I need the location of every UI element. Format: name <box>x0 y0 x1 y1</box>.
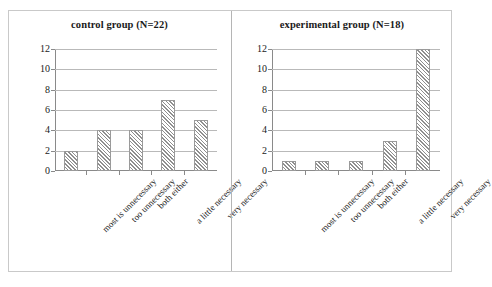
bar-slot <box>406 49 440 171</box>
chart-title-experimental-group: experimental group (N=18) <box>232 19 452 30</box>
y-tick-label: 8 <box>45 85 50 95</box>
bar-slot <box>55 49 87 171</box>
x-tick-mark <box>405 171 406 175</box>
bar-slot <box>152 49 184 171</box>
x-tick-mark <box>119 171 120 175</box>
bar-slot <box>306 49 340 171</box>
y-tick-mark <box>268 171 272 172</box>
y-tick-label: 6 <box>262 105 267 115</box>
bar-slot <box>87 49 119 171</box>
y-tick-label: 12 <box>257 44 267 54</box>
y-tick-label: 10 <box>40 64 50 74</box>
bar <box>161 100 175 171</box>
bar-series-experimental-group <box>272 49 440 171</box>
bar <box>315 161 329 171</box>
x-tick-mark <box>338 171 339 175</box>
y-tick-label: 6 <box>45 105 50 115</box>
y-tick-label: 2 <box>45 146 50 156</box>
bar <box>349 161 363 171</box>
bar-slot <box>373 49 407 171</box>
y-tick-mark <box>51 171 55 172</box>
bar <box>97 130 111 171</box>
plot-area-control-group: 024681012 <box>55 49 217 171</box>
bar-series-control-group <box>55 49 217 171</box>
y-tick-label: 4 <box>262 125 267 135</box>
bar-slot <box>120 49 152 171</box>
y-tick-label: 0 <box>262 166 267 176</box>
y-tick-label: 12 <box>40 44 50 54</box>
chart-panel-experimental-group: experimental group (N=18) 024681012 most… <box>231 11 452 271</box>
x-tick-mark <box>372 171 373 175</box>
y-tick-label: 0 <box>45 166 50 176</box>
x-tick-mark <box>305 171 306 175</box>
bar <box>194 120 208 171</box>
x-tick-labels-control-group: most is unnecessarytoo unnecessaryboth e… <box>55 177 217 267</box>
x-tick-label: a little necessary <box>417 177 466 226</box>
bar <box>129 130 143 171</box>
bar <box>282 161 296 171</box>
bar-slot <box>185 49 217 171</box>
bar-slot <box>339 49 373 171</box>
chart-panel-control-group: control group (N=22) 024681012 most is u… <box>9 11 230 271</box>
bar <box>64 151 78 171</box>
bar-slot <box>272 49 306 171</box>
x-tick-mark <box>151 171 152 175</box>
x-tick-mark <box>184 171 185 175</box>
y-tick-label: 10 <box>257 64 267 74</box>
chart-title-control-group: control group (N=22) <box>9 19 230 30</box>
x-tick-mark <box>86 171 87 175</box>
figure-frame: control group (N=22) 024681012 most is u… <box>8 10 452 272</box>
x-tick-labels-experimental-group: most is unnecessarytoo unnecessaryboth e… <box>272 177 440 267</box>
bar <box>416 49 430 171</box>
plot-area-experimental-group: 024681012 <box>272 49 440 171</box>
y-tick-label: 2 <box>262 146 267 156</box>
bar <box>383 141 397 172</box>
y-tick-label: 4 <box>45 125 50 135</box>
y-tick-label: 8 <box>262 85 267 95</box>
